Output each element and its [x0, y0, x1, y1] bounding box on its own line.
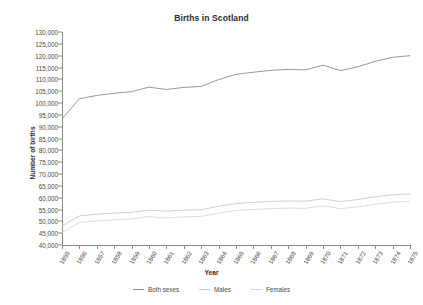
plot-area	[62, 32, 410, 245]
x-tick-mark	[132, 245, 133, 249]
x-tick-mark	[149, 245, 150, 249]
legend-label: Both sexes	[148, 286, 179, 293]
x-tick-label: 1865	[232, 250, 245, 265]
x-tick-mark	[340, 245, 341, 249]
chart-container: Births in Scotland Number of births 130,…	[0, 0, 423, 305]
legend-swatch	[251, 289, 262, 290]
legend-label: Females	[266, 286, 290, 293]
x-tick-label: 1857	[93, 250, 106, 265]
chart-legend: Both sexesMalesFemales	[0, 286, 423, 293]
x-axis-title: Year	[0, 269, 423, 276]
x-tick-label: 1855	[58, 250, 71, 265]
x-tick-label: 1869	[301, 250, 314, 265]
x-tick-label: 1856	[75, 250, 88, 265]
x-tick-mark	[253, 245, 254, 249]
x-tick-mark	[306, 245, 307, 249]
x-tick-label: 1874	[388, 250, 401, 265]
x-tick-mark	[97, 245, 98, 249]
x-tick-label: 1860	[145, 250, 158, 265]
legend-item[interactable]: Females	[251, 286, 290, 293]
series-line	[62, 201, 410, 232]
x-tick-label: 1863	[197, 250, 210, 265]
legend-swatch	[133, 289, 144, 290]
x-tick-label: 1871	[336, 250, 349, 265]
x-tick-label: 1859	[127, 250, 140, 265]
x-tick-mark	[201, 245, 202, 249]
x-tick-mark	[410, 245, 411, 249]
chart-title: Births in Scotland	[0, 13, 423, 23]
x-tick-mark	[375, 245, 376, 249]
x-tick-mark	[219, 245, 220, 249]
x-tick-mark	[79, 245, 80, 249]
x-tick-mark	[236, 245, 237, 249]
x-tick-label: 1873	[371, 250, 384, 265]
x-tick-mark	[114, 245, 115, 249]
legend-label: Males	[214, 286, 231, 293]
x-tick-mark	[271, 245, 272, 249]
x-tick-label: 1862	[180, 250, 193, 265]
x-tick-label: 1864	[214, 250, 227, 265]
x-tick-mark	[166, 245, 167, 249]
x-tick-label: 1868	[284, 250, 297, 265]
x-tick-mark	[393, 245, 394, 249]
series-line	[62, 194, 410, 226]
x-tick-label: 1866	[249, 250, 262, 265]
x-tick-label: 1867	[267, 250, 280, 265]
x-tick-label: 1870	[319, 250, 332, 265]
legend-item[interactable]: Males	[199, 286, 231, 293]
x-tick-mark	[323, 245, 324, 249]
series-line	[62, 56, 410, 119]
x-tick-mark	[62, 245, 63, 249]
x-tick-mark	[184, 245, 185, 249]
x-tick-label: 1875	[406, 250, 419, 265]
x-tick-mark	[358, 245, 359, 249]
series-lines	[62, 32, 410, 245]
legend-item[interactable]: Both sexes	[133, 286, 179, 293]
x-tick-label: 1858	[110, 250, 123, 265]
x-tick-label: 1861	[162, 250, 175, 265]
x-tick-mark	[288, 245, 289, 249]
y-axis-tick-marks	[0, 32, 62, 245]
legend-swatch	[199, 289, 210, 290]
x-tick-label: 1872	[354, 250, 367, 265]
